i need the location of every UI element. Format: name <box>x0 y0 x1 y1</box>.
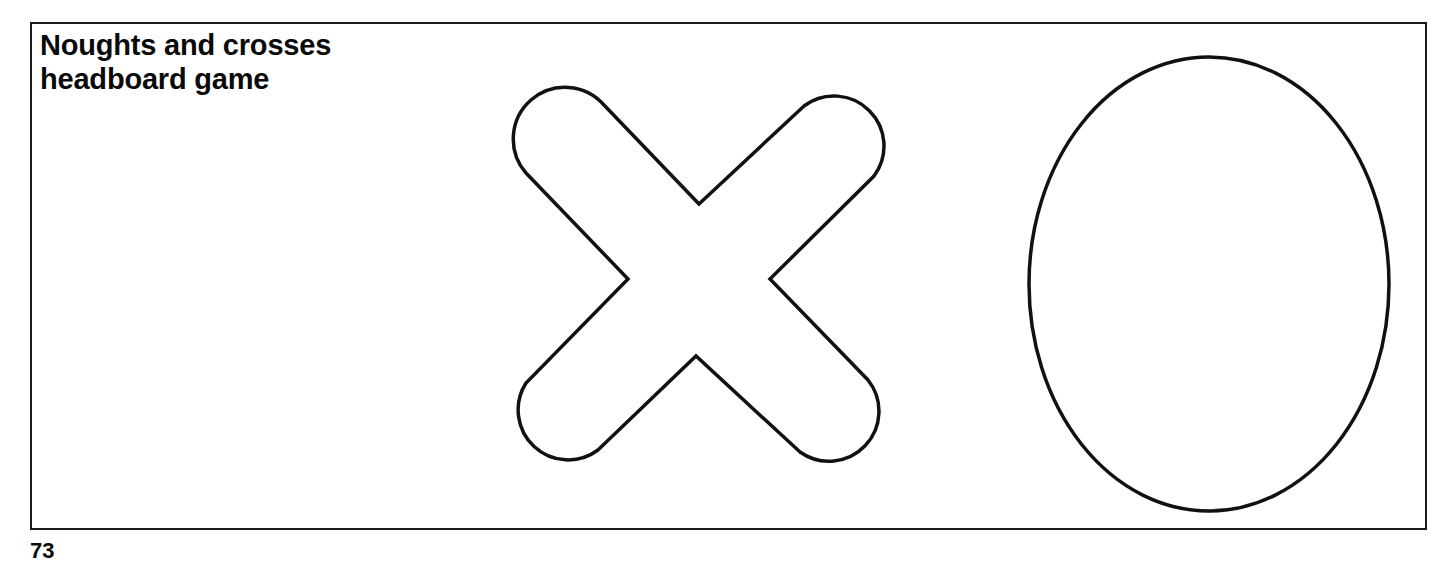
figure-label-fragment: 73 <box>30 540 54 562</box>
nought-icon <box>1029 57 1389 511</box>
cross-shape <box>513 87 884 461</box>
nought-shape <box>1029 57 1389 511</box>
cross-icon <box>513 87 884 461</box>
